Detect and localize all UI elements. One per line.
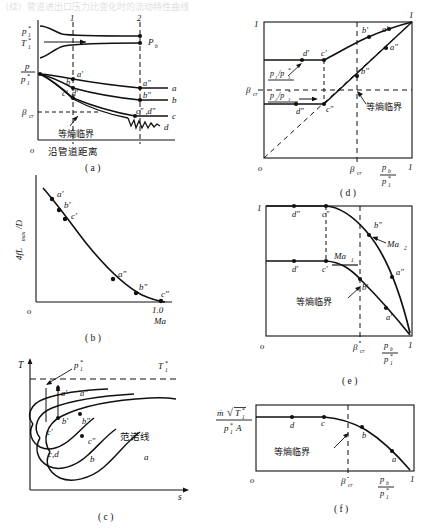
svg-text:1: 1	[242, 414, 245, 420]
svg-text:1: 1	[28, 44, 31, 50]
svg-text:cr: cr	[253, 91, 258, 97]
svg-text:cr: cr	[357, 170, 362, 176]
svg-text:cr: cr	[29, 113, 34, 119]
label-a-dprime: a"	[80, 388, 88, 398]
svg-text:1: 1	[386, 494, 389, 500]
svg-text:p: p	[269, 91, 274, 100]
panel-c-caption: ( c )	[98, 512, 113, 523]
x-max-label: 1	[408, 162, 413, 172]
label-d: d	[290, 420, 295, 430]
svg-text:T: T	[235, 408, 241, 418]
label-a-dprime: a"	[118, 269, 127, 279]
point-d	[290, 415, 294, 419]
label-a-dprime: a"	[396, 267, 404, 277]
label-d-dprime: d"	[296, 106, 304, 116]
point-a-dprime	[384, 46, 388, 50]
svg-text:β: β	[21, 107, 27, 117]
panel-d: 1 1 d' c' b' a' a" b" c" d" p 1 /p 1 * p…	[214, 8, 429, 186]
svg-text:β: β	[340, 476, 346, 486]
svg-text:Ma: Ma	[386, 239, 399, 249]
label-a-prime: a'	[77, 69, 83, 79]
svg-text:β: β	[245, 85, 251, 95]
origin-label: o	[27, 306, 31, 316]
label-c-dprime: c"	[88, 436, 96, 446]
annotation-fanno-line: 范诺线	[120, 431, 150, 442]
label-b-prime: b'	[64, 200, 72, 210]
label-curve-c: c	[172, 111, 176, 121]
label-curve-a: a	[172, 83, 177, 93]
svg-text:cr: cr	[348, 482, 353, 488]
svg-text:1: 1	[80, 366, 83, 372]
svg-text:*: *	[288, 67, 291, 73]
point-d-dprime	[292, 204, 296, 208]
panel-f-caption: ( f )	[334, 504, 348, 515]
beta-cr-y-label: β cr	[245, 85, 258, 97]
x-tick-1: 1.0	[152, 305, 164, 315]
label-c-prime: c'	[321, 48, 327, 58]
back-pressure-label: P b	[147, 37, 158, 49]
label-curve-b: b	[90, 454, 95, 464]
label-b-dprime: b"	[143, 90, 151, 100]
shock-train-wavy	[128, 118, 160, 128]
point-d-prime	[292, 259, 296, 263]
y-max-label: 1	[254, 19, 259, 29]
svg-text:p: p	[379, 488, 384, 498]
label-curve-d: d	[164, 122, 169, 132]
station-1-label: 1	[70, 13, 74, 23]
annotation-isentropic-critical: 等熵临界	[366, 101, 402, 112]
svg-text:A: A	[235, 423, 242, 433]
label-d-dprime: d"	[292, 209, 300, 219]
y-axis-label-denom: /D	[14, 219, 24, 230]
label-c-dprime: c"	[322, 209, 330, 219]
stagnation-pressure-curve	[40, 26, 140, 36]
svg-text:*: *	[242, 407, 245, 413]
svg-text:*: *	[386, 487, 389, 493]
label-cd-dprime: c" ,d"	[136, 106, 156, 116]
point-a-prime	[56, 386, 60, 390]
point-a-dprime	[390, 275, 394, 279]
svg-text:p: p	[381, 162, 386, 172]
label-curve-cd: c,d	[48, 449, 59, 459]
point-d-prime	[300, 58, 304, 62]
x-axis-fraction-label: p b p 1 *	[382, 340, 398, 366]
svg-text:p: p	[20, 74, 26, 84]
label-a-prime: a'	[382, 24, 388, 34]
svg-text:/p: /p	[277, 69, 284, 78]
beta-cr-x-label: β cr	[340, 476, 353, 488]
annotation-isentropic-critical: 等熵临界	[274, 446, 310, 457]
svg-text:Ma: Ma	[333, 251, 346, 261]
label-d-prime: d'	[292, 264, 298, 274]
label-d-prime: d'	[303, 48, 309, 58]
p1-star-label: p 1 *	[73, 358, 83, 372]
point-b-prime	[56, 416, 60, 420]
y-axis-fraction-label: ṁ √ T 1 * p 1 * A	[216, 406, 252, 435]
p2-ratio-arrow	[299, 97, 318, 101]
svg-text:P: P	[147, 37, 154, 47]
panel-a: 1 2 p 1 * T 1 * p p 1 * β cr P b	[0, 12, 215, 172]
isentropic-critical-arrow	[348, 286, 361, 298]
y-axis-label-T: T	[18, 360, 24, 370]
svg-text:*: *	[165, 359, 168, 366]
svg-text:p: p	[269, 69, 274, 78]
curve-c	[40, 74, 135, 116]
label-a-prime: a'	[57, 189, 65, 199]
svg-text:p: p	[379, 474, 384, 484]
curve-a	[40, 74, 140, 88]
svg-text:p: p	[21, 26, 27, 36]
label-c-dprime: c"	[161, 289, 169, 299]
label-curve-a: a	[144, 452, 149, 462]
svg-text:1: 1	[165, 367, 168, 373]
panel-f: ( e ) d c b a ṁ √ T 1 * p 1 * A 等熵临界 o β…	[214, 368, 429, 532]
label-c-prime: c'	[71, 211, 78, 221]
point-b-dprime	[134, 291, 138, 295]
origin-label: o	[260, 341, 264, 351]
svg-text:p: p	[383, 340, 388, 350]
station-2-label: 2	[137, 13, 142, 23]
Ma1-curve	[266, 261, 410, 335]
label-b-prime: b'	[362, 25, 368, 35]
x-axis-label-ma: Ma	[153, 316, 166, 326]
svg-text:1: 1	[351, 257, 354, 263]
y-axis-label-group: 4fL max /D	[14, 219, 26, 260]
point-b-prime	[57, 208, 61, 212]
svg-text:1: 1	[230, 429, 233, 435]
